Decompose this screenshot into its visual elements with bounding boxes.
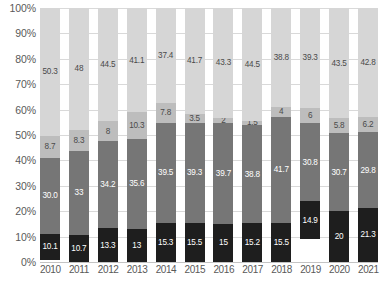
bar-segment-segment-1-bottom[interactable]: 15.5 bbox=[185, 223, 205, 262]
bar-value-label: 10.3 bbox=[129, 121, 144, 130]
bar-segment-segment-3[interactable]: 6 bbox=[300, 108, 320, 123]
bar-segment-segment-4-top[interactable]: 41.1 bbox=[127, 8, 147, 112]
bar-segment-segment-1-bottom[interactable]: 15.3 bbox=[156, 223, 176, 262]
bar-value-label: 37.4 bbox=[158, 51, 173, 60]
y-axis-tick-label: 0% bbox=[21, 256, 36, 268]
x-axis: 2010201120122013201420152016201720182019… bbox=[40, 264, 378, 284]
bar-value-label: 15 bbox=[219, 238, 228, 247]
bar-segment-segment-4-top[interactable]: 48 bbox=[69, 8, 89, 130]
bar-segment-segment-4-top[interactable]: 50.3 bbox=[40, 8, 60, 136]
bar-value-label: 44.5 bbox=[245, 60, 260, 69]
bar-2015[interactable]: 41.73.539.315.5 bbox=[185, 8, 205, 262]
bar-segment-segment-2[interactable]: 30.0 bbox=[40, 158, 60, 234]
x-axis-tick-2018: 2018 bbox=[271, 264, 291, 284]
bar-segment-segment-1-bottom[interactable]: 21.3 bbox=[358, 208, 378, 262]
bar-group: 50.38.730.010.1488.33310.744.5834.213.34… bbox=[40, 8, 378, 262]
y-axis-tick-label: 90% bbox=[15, 27, 36, 39]
bar-segment-segment-1-bottom[interactable]: 20 bbox=[329, 211, 349, 262]
bar-segment-segment-3[interactable]: 5.8 bbox=[329, 118, 349, 133]
bar-segment-segment-2[interactable]: 41.7 bbox=[271, 117, 291, 223]
bar-value-label: 50.3 bbox=[42, 67, 57, 76]
bar-segment-segment-1-bottom[interactable]: 14.9 bbox=[300, 201, 320, 239]
bar-segment-segment-2[interactable]: 39.3 bbox=[185, 123, 205, 223]
bar-2013[interactable]: 41.110.335.613 bbox=[127, 8, 147, 262]
bar-segment-segment-4-top[interactable]: 42.8 bbox=[358, 8, 378, 117]
bar-segment-segment-1-bottom[interactable]: 10.1 bbox=[40, 234, 60, 260]
bar-segment-segment-4-top[interactable]: 43.5 bbox=[329, 8, 349, 118]
bar-segment-segment-3[interactable]: 8 bbox=[98, 121, 118, 141]
bar-segment-segment-1-bottom[interactable]: 13 bbox=[127, 229, 147, 262]
bar-segment-segment-3[interactable]: 8.3 bbox=[69, 130, 89, 151]
bar-value-label: 15.3 bbox=[158, 238, 173, 247]
bar-value-label: 13 bbox=[132, 241, 141, 250]
bar-segment-segment-2[interactable]: 35.6 bbox=[127, 139, 147, 229]
y-axis-tick-label: 30% bbox=[15, 180, 36, 192]
bar-value-label: 33 bbox=[75, 188, 84, 197]
bar-segment-segment-2[interactable]: 30.7 bbox=[329, 133, 349, 211]
x-axis-tick-2019: 2019 bbox=[300, 264, 320, 284]
x-axis-tick-2011: 2011 bbox=[69, 264, 89, 284]
bar-value-label: 44.5 bbox=[100, 60, 115, 69]
bar-value-label: 41.7 bbox=[187, 56, 202, 65]
bar-2018[interactable]: 38.8441.715.5 bbox=[271, 8, 291, 262]
x-axis-tick-2015: 2015 bbox=[185, 264, 205, 284]
bar-value-label: 8 bbox=[106, 127, 110, 136]
bar-segment-segment-4-top[interactable]: 44.5 bbox=[242, 8, 262, 121]
y-axis-tick-label: 70% bbox=[15, 78, 36, 90]
bar-2017[interactable]: 44.51.538.815.2 bbox=[242, 8, 262, 262]
bar-segment-segment-1-bottom[interactable]: 10.7 bbox=[69, 235, 89, 262]
bar-value-label: 10.1 bbox=[42, 242, 57, 251]
y-axis-tick-label: 80% bbox=[15, 53, 36, 65]
bar-value-label: 41.1 bbox=[129, 56, 144, 65]
bar-segment-segment-1-bottom[interactable]: 15.2 bbox=[242, 223, 262, 262]
bar-segment-segment-4-top[interactable]: 41.7 bbox=[185, 8, 205, 114]
bar-segment-segment-1-bottom[interactable]: 15.5 bbox=[271, 223, 291, 262]
bar-value-label: 6.2 bbox=[363, 120, 374, 129]
bar-2010[interactable]: 50.38.730.010.1 bbox=[40, 8, 60, 262]
bar-value-label: 39.5 bbox=[158, 168, 173, 177]
bar-2014[interactable]: 37.47.839.515.3 bbox=[156, 8, 176, 262]
bar-segment-segment-4-top[interactable]: 43.3 bbox=[213, 8, 233, 118]
bar-segment-segment-2[interactable]: 34.2 bbox=[98, 141, 118, 228]
bar-value-label: 20 bbox=[335, 232, 344, 241]
bar-segment-segment-2[interactable]: 39.7 bbox=[213, 123, 233, 224]
bar-segment-segment-4-top[interactable]: 44.5 bbox=[98, 8, 118, 121]
bar-segment-segment-2[interactable]: 30.8 bbox=[300, 123, 320, 201]
bar-value-label: 39.3 bbox=[187, 168, 202, 177]
bar-value-label: 4 bbox=[279, 107, 283, 116]
bar-segment-segment-3[interactable]: 7.8 bbox=[156, 103, 176, 123]
bar-segment-segment-2[interactable]: 38.8 bbox=[242, 125, 262, 224]
bar-2012[interactable]: 44.5834.213.3 bbox=[98, 8, 118, 262]
bar-segment-segment-3[interactable]: 8.7 bbox=[40, 136, 60, 158]
bar-segment-segment-3[interactable]: 10.3 bbox=[127, 112, 147, 138]
bar-2020[interactable]: 43.55.830.720 bbox=[329, 8, 349, 262]
bar-value-label: 43.5 bbox=[331, 59, 346, 68]
bar-segment-segment-4-top[interactable]: 37.4 bbox=[156, 8, 176, 103]
bar-value-label: 29.8 bbox=[360, 166, 375, 175]
bar-2011[interactable]: 488.33310.7 bbox=[69, 8, 89, 262]
bar-2019[interactable]: 39.3630.814.9 bbox=[300, 8, 320, 262]
bar-value-label: 21.3 bbox=[360, 230, 375, 239]
bar-segment-segment-2[interactable]: 33 bbox=[69, 151, 89, 235]
bar-segment-segment-3[interactable]: 4 bbox=[271, 107, 291, 117]
bar-segment-segment-1-bottom[interactable]: 15 bbox=[213, 224, 233, 262]
x-axis-tick-2017: 2017 bbox=[242, 264, 262, 284]
bar-segment-segment-1-bottom[interactable]: 13.3 bbox=[98, 228, 118, 262]
y-axis-tick-label: 60% bbox=[15, 104, 36, 116]
bar-value-label: 30.0 bbox=[42, 191, 57, 200]
bar-segment-segment-4-top[interactable]: 38.8 bbox=[271, 8, 291, 107]
bar-2016[interactable]: 43.3239.715 bbox=[213, 8, 233, 262]
x-axis-tick-2012: 2012 bbox=[98, 264, 118, 284]
bar-2021[interactable]: 42.86.229.821.3 bbox=[358, 8, 378, 262]
bar-segment-segment-2[interactable]: 39.5 bbox=[156, 123, 176, 223]
bar-segment-segment-3[interactable]: 6.2 bbox=[358, 117, 378, 133]
bar-segment-segment-3[interactable]: 3.5 bbox=[185, 114, 205, 123]
x-axis-tick-2013: 2013 bbox=[127, 264, 147, 284]
bar-segment-segment-2[interactable]: 29.8 bbox=[358, 132, 378, 208]
stacked-bar-chart: 0%10%20%30%40%50%60%70%80%90%100% 50.38.… bbox=[0, 0, 382, 292]
bar-value-label: 48 bbox=[75, 64, 84, 73]
bar-value-label: 34.2 bbox=[100, 180, 115, 189]
bar-value-label: 6 bbox=[308, 111, 312, 120]
bar-value-label: 42.8 bbox=[360, 58, 375, 67]
bar-segment-segment-4-top[interactable]: 39.3 bbox=[300, 8, 320, 108]
